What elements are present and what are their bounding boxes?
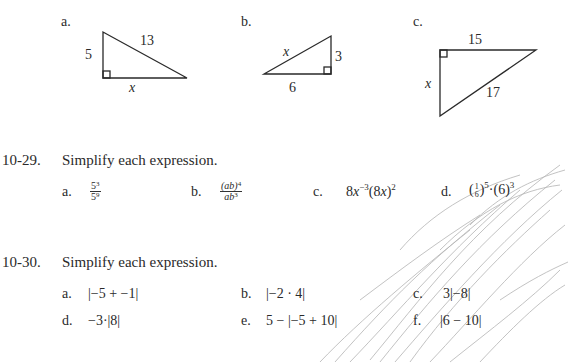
problem-29-d-expression: (16)5·(6)3 — [469, 182, 514, 199]
triangle-b-label: b. — [241, 14, 252, 30]
problem-30-c-label: c. — [413, 286, 423, 302]
problem-30-e-expression: 5 − |−5 + 10| — [266, 313, 337, 329]
problem-29-c-label: c. — [313, 184, 323, 200]
triangle-a-hypotenuse: 13 — [140, 33, 154, 49]
triangle-c-side-horizontal: 15 — [468, 32, 482, 48]
problem-29-c-expression: 8x−3(8x)2 — [346, 184, 396, 200]
triangle-c-side-vertical: x — [425, 76, 431, 92]
problem-30-f-expression: |6 − 10| — [440, 313, 482, 329]
triangle-b-hypotenuse: x — [283, 44, 289, 60]
problem-30-prompt: Simplify each expression. — [62, 254, 217, 271]
triangle-b-side-horizontal: 6 — [289, 80, 296, 96]
problem-29-number: 10-29. — [2, 152, 41, 169]
problem-29-d-label: d. — [441, 184, 452, 200]
triangle-a-label: a. — [61, 14, 71, 30]
problem-30-a-label: a. — [62, 286, 72, 302]
problem-30-e-label: e. — [241, 313, 251, 329]
problem-30-c-expression: 3|−8| — [443, 286, 471, 302]
problem-30-number: 10-30. — [2, 254, 41, 271]
triangle-b — [264, 36, 331, 74]
problem-30-f-label: f. — [413, 313, 421, 329]
triangle-a-side-horizontal: x — [129, 80, 135, 96]
problem-29-a-expression: 5359 — [90, 181, 101, 202]
problem-30-b-expression: |−2 · 4| — [266, 286, 305, 302]
triangle-c-label: c. — [413, 14, 423, 30]
triangle-c — [440, 50, 536, 116]
problem-29-b-label: b. — [191, 184, 202, 200]
triangle-a-side-vertical: 5 — [85, 47, 92, 63]
triangle-c-hypotenuse: 17 — [486, 85, 500, 101]
problem-30-d-label: d. — [62, 313, 73, 329]
triangle-b-side-vertical: 3 — [335, 49, 342, 65]
problem-30-d-expression: −3·|8| — [88, 313, 120, 329]
problem-29-b-expression: (ab)4ab3 — [220, 181, 242, 202]
problem-30-a-expression: |−5 + −1| — [88, 286, 138, 302]
problem-29-a-label: a. — [62, 184, 72, 200]
problem-29-prompt: Simplify each expression. — [62, 152, 217, 169]
problem-30-b-label: b. — [241, 286, 252, 302]
